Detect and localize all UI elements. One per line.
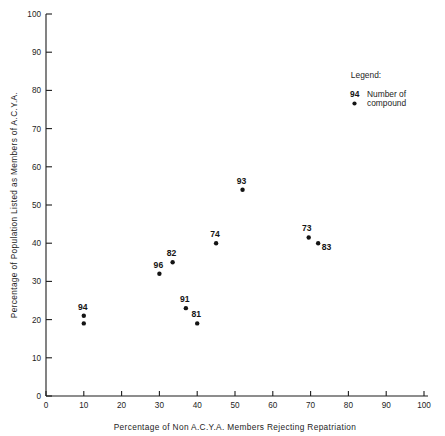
y-tick-label: 10	[32, 354, 42, 363]
data-point	[82, 314, 86, 318]
y-tick-label: 40	[32, 239, 42, 248]
x-tick-label: 60	[268, 401, 278, 410]
data-point-label: 82	[167, 248, 177, 258]
x-tick-label: 50	[230, 401, 240, 410]
y-tick-label: 90	[32, 48, 42, 57]
legend-sample-number: 94	[350, 89, 360, 99]
scatter-plot-figure: 0102030405060708090100 01020304050607080…	[0, 0, 445, 436]
y-axis-title: Percentage of Population Listed as Membe…	[9, 92, 19, 318]
data-point	[195, 321, 199, 325]
y-tick-label: 30	[32, 277, 42, 286]
data-point	[316, 241, 320, 245]
plot-canvas: 0102030405060708090100 01020304050607080…	[0, 0, 445, 436]
x-tick-label: 40	[193, 401, 203, 410]
data-point-label: 94	[78, 302, 88, 312]
data-point	[214, 241, 218, 245]
x-tick-label: 20	[117, 401, 127, 410]
y-tick-label: 0	[36, 392, 41, 401]
x-tick-label: 10	[79, 401, 89, 410]
x-axis-title: Percentage of Non A.C.Y.A. Members Rejec…	[114, 422, 357, 432]
y-tick-label: 100	[27, 10, 41, 19]
data-point	[307, 235, 311, 239]
legend-sample-dot	[352, 101, 356, 105]
data-point-label: 93	[237, 176, 247, 186]
data-point-label: 96	[154, 260, 164, 270]
data-point	[82, 321, 86, 325]
x-tick-label: 90	[382, 401, 392, 410]
data-point-label: 73	[302, 223, 312, 233]
data-point-label: 83	[322, 242, 332, 252]
data-point	[157, 272, 161, 276]
x-tick-label: 0	[44, 401, 49, 410]
data-point	[240, 188, 244, 192]
x-tick-label: 80	[344, 401, 354, 410]
data-point	[170, 260, 174, 264]
data-point-label: 91	[180, 294, 190, 304]
y-tick-label: 50	[32, 201, 42, 210]
y-tick-label: 60	[32, 163, 42, 172]
x-axis-ticks: 0102030405060708090100	[44, 391, 432, 410]
x-tick-label: 70	[306, 401, 316, 410]
x-tick-label: 30	[155, 401, 165, 410]
y-tick-label: 20	[32, 316, 42, 325]
y-axis-ticks: 0102030405060708090100	[27, 10, 52, 401]
legend: Legend: 94 Number of compound	[350, 70, 407, 108]
data-point-label: 81	[191, 309, 201, 319]
legend-title: Legend:	[351, 70, 381, 80]
y-tick-label: 80	[32, 86, 42, 95]
x-tick-label: 100	[417, 401, 431, 410]
data-point-label: 74	[210, 229, 220, 239]
legend-description-line2: compound	[367, 98, 406, 108]
data-point	[184, 306, 188, 310]
data-points: 949682918174937383	[78, 176, 331, 326]
y-tick-label: 70	[32, 125, 42, 134]
